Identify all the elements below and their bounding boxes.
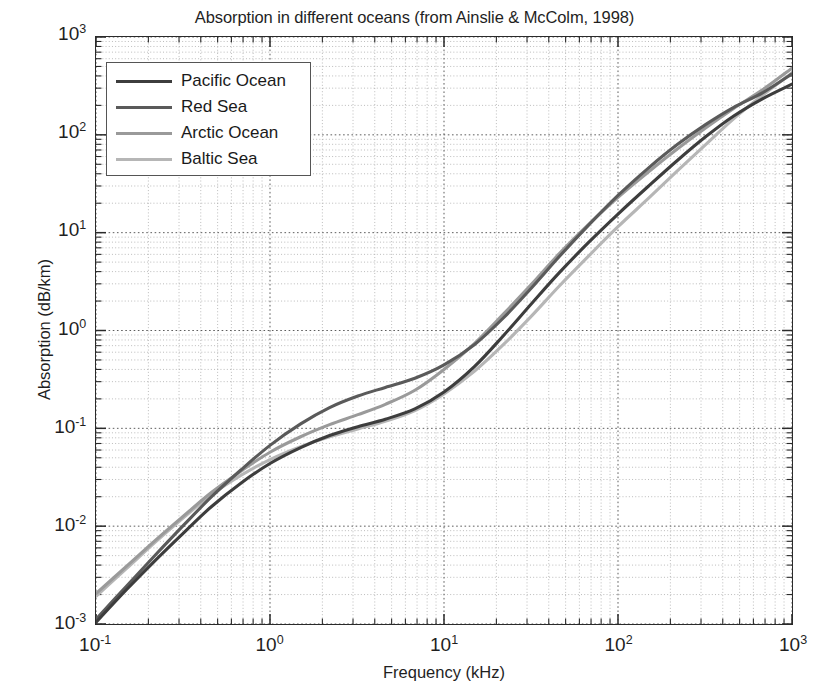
y-tick-mantissa: 10 (54, 612, 75, 633)
legend-item-red-sea[interactable]: Red Sea (107, 94, 310, 120)
chart-title: Absorption in different oceans (from Ain… (0, 8, 829, 27)
x-tick-label: 102 (574, 633, 664, 656)
x-tick-label: 100 (225, 633, 315, 656)
x-tick-label: 103 (748, 633, 829, 656)
legend-item-label: Red Sea (181, 97, 247, 117)
x-tick-label: 10-1 (50, 633, 140, 656)
x-tick-mantissa: 10 (779, 634, 800, 655)
x-tick-exponent: 1 (451, 633, 458, 647)
legend-line-swatch (116, 80, 172, 83)
y-tick-exponent: -2 (75, 513, 86, 527)
legend-item-label: Pacific Ocean (181, 71, 286, 91)
x-tick-label: 101 (399, 633, 489, 656)
legend-item-arctic-ocean[interactable]: Arctic Ocean (107, 120, 310, 146)
legend-item-baltic-sea[interactable]: Baltic Sea (107, 146, 310, 172)
y-tick-exponent: -3 (75, 611, 86, 625)
y-tick-mantissa: 10 (54, 416, 75, 437)
legend-line-swatch (116, 132, 172, 135)
y-tick-exponent: 3 (79, 22, 86, 36)
y-tick-label: 102 (8, 120, 86, 143)
x-tick-exponent: -1 (100, 633, 111, 647)
x-axis-label: Frequency (kHz) (95, 663, 793, 682)
legend-item-pacific-ocean[interactable]: Pacific Ocean (107, 68, 310, 94)
x-tick-exponent: 0 (277, 633, 284, 647)
x-tick-mantissa: 10 (605, 634, 626, 655)
y-tick-mantissa: 10 (58, 23, 79, 44)
x-tick-exponent: 2 (626, 633, 633, 647)
y-tick-mantissa: 10 (58, 220, 79, 241)
x-tick-exponent: 3 (800, 633, 807, 647)
y-tick-label: 103 (8, 22, 86, 45)
legend-item-label: Arctic Ocean (181, 123, 278, 143)
x-tick-mantissa: 10 (430, 634, 451, 655)
y-tick-mantissa: 10 (58, 121, 79, 142)
legend-line-swatch (116, 106, 172, 109)
y-tick-label: 10-2 (8, 513, 86, 536)
figure-canvas: Absorption in different oceans (from Ain… (0, 0, 829, 699)
legend-line-swatch (116, 158, 172, 161)
y-tick-label: 10-3 (8, 611, 86, 634)
x-tick-mantissa: 10 (256, 634, 277, 655)
y-tick-exponent: 0 (79, 317, 86, 331)
legend-item-label: Baltic Sea (181, 149, 258, 169)
legend: Pacific OceanRed SeaArctic OceanBaltic S… (106, 62, 311, 176)
y-axis-label: Absorption (dB/km) (35, 180, 54, 480)
x-tick-mantissa: 10 (79, 634, 100, 655)
y-tick-mantissa: 10 (54, 514, 75, 535)
y-tick-exponent: -1 (75, 415, 86, 429)
y-tick-exponent: 2 (79, 120, 86, 134)
y-tick-exponent: 1 (79, 218, 86, 232)
y-tick-mantissa: 10 (58, 318, 79, 339)
